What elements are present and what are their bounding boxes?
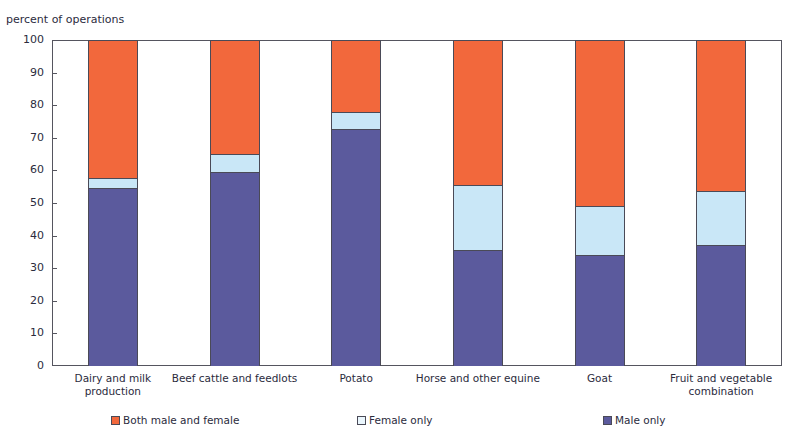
square-swatch-icon: [111, 416, 120, 425]
bar-segment-male[interactable]: [696, 245, 746, 366]
legend-item-female[interactable]: Female only: [357, 414, 433, 426]
bar-segment-female[interactable]: [88, 178, 138, 188]
x-axis-tick-label: Fruit and vegetable combination: [658, 372, 784, 398]
y-axis-tick-label: 30: [4, 263, 44, 273]
bar-segment-male[interactable]: [210, 172, 260, 366]
x-axis-tick-label: Potato: [293, 372, 419, 385]
y-axis-tick-label: 80: [4, 100, 44, 110]
y-axis-tick-label: 0: [4, 361, 44, 371]
bar-segment-female[interactable]: [453, 185, 503, 250]
x-axis-tick-label: Horse and other equine: [415, 372, 541, 385]
y-axis-tick-mark: [52, 73, 57, 74]
y-axis-tick-mark: [52, 105, 57, 106]
bar-segment-both[interactable]: [331, 40, 381, 112]
stacked-bar[interactable]: [331, 40, 381, 366]
legend-item-label: Both male and female: [123, 414, 239, 426]
legend-item-label: Female only: [369, 414, 433, 426]
y-axis-tick-mark: [52, 333, 57, 334]
y-axis-tick-mark: [52, 236, 57, 237]
bar-segment-male[interactable]: [331, 129, 381, 366]
square-swatch-icon: [603, 416, 612, 425]
y-axis-tick-mark: [52, 138, 57, 139]
y-axis-tick-label: 100: [4, 35, 44, 45]
stacked-bar-chart: percent of operations 100908070605040302…: [0, 0, 791, 445]
y-axis-tick-label: 90: [4, 68, 44, 78]
bar-segment-both[interactable]: [575, 40, 625, 206]
bar-segment-both[interactable]: [696, 40, 746, 191]
y-axis-tick-mark: [52, 301, 57, 302]
stacked-bar[interactable]: [453, 40, 503, 366]
square-swatch-icon: [357, 416, 366, 425]
x-axis-tick-label: Goat: [537, 372, 663, 385]
y-axis-tick-label: 60: [4, 165, 44, 175]
y-axis-tick-mark: [52, 170, 57, 171]
stacked-bar[interactable]: [575, 40, 625, 366]
y-axis-tick-mark: [52, 203, 57, 204]
chart-legend: Both male and femaleFemale onlyMale only: [0, 414, 791, 434]
bar-segment-female[interactable]: [575, 206, 625, 255]
y-axis-tick-mark: [52, 268, 57, 269]
x-axis-tick-label: Beef cattle and feedlots: [172, 372, 298, 385]
faint-clipped-title: [150, 0, 650, 11]
x-axis-tick-label: Dairy and milk production: [50, 372, 176, 398]
bar-segment-female[interactable]: [331, 112, 381, 129]
bar-segment-female[interactable]: [696, 191, 746, 245]
stacked-bar[interactable]: [210, 40, 260, 366]
legend-item-male[interactable]: Male only: [603, 414, 665, 426]
bar-segment-both[interactable]: [453, 40, 503, 185]
stacked-bar[interactable]: [88, 40, 138, 366]
y-axis-tick-label: 40: [4, 231, 44, 241]
bar-segment-male[interactable]: [575, 255, 625, 366]
plot-area: [52, 40, 782, 366]
bar-segment-both[interactable]: [88, 40, 138, 178]
bar-segment-female[interactable]: [210, 154, 260, 172]
y-axis-tick-label: 50: [4, 198, 44, 208]
legend-item-both[interactable]: Both male and female: [111, 414, 239, 426]
y-axis-tick-label: 20: [4, 296, 44, 306]
y-axis-tick-label: 10: [4, 328, 44, 338]
bar-segment-male[interactable]: [453, 250, 503, 366]
bar-segment-both[interactable]: [210, 40, 260, 154]
bar-segment-male[interactable]: [88, 188, 138, 366]
legend-item-label: Male only: [615, 414, 665, 426]
y-axis-tick-label: 70: [4, 133, 44, 143]
stacked-bar[interactable]: [696, 40, 746, 366]
y-axis-title: percent of operations: [6, 13, 124, 26]
